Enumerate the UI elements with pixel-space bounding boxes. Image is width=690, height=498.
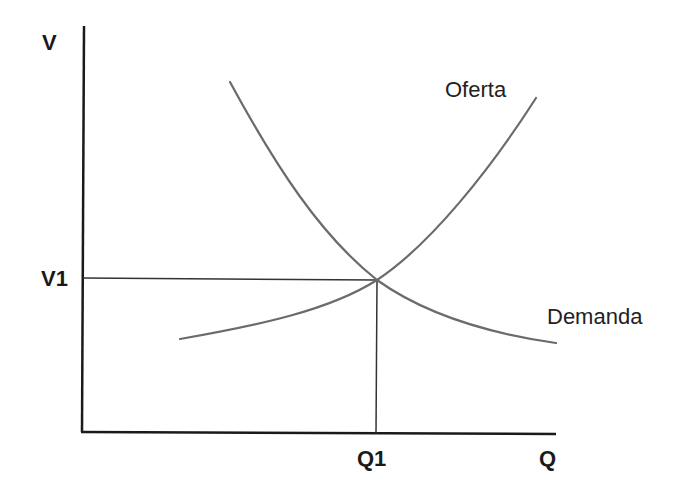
quantity-guide-line	[376, 280, 377, 433]
demand-curve-label: Demanda	[547, 306, 642, 328]
price-equilibrium-label: V1	[41, 268, 68, 290]
y-axis	[82, 26, 84, 432]
supply-curve	[180, 98, 536, 339]
x-axis	[81, 432, 556, 434]
supply-curve-label: Oferta	[445, 79, 506, 101]
quantity-equilibrium-label: Q1	[357, 448, 386, 470]
supply-demand-diagram	[0, 0, 690, 498]
demand-curve	[230, 82, 556, 343]
price-guide-line	[83, 278, 377, 280]
y-axis-label: V	[42, 32, 57, 54]
x-axis-label: Q	[539, 448, 556, 470]
